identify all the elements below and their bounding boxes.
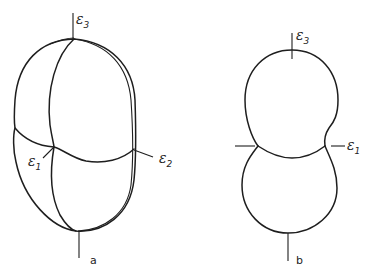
- panel-a-label: a: [90, 254, 97, 267]
- figure-canvas: ε3 ε1 ε2 a ε3 ε1 b: [0, 0, 374, 280]
- panel-b-e3-label: ε3: [296, 27, 310, 46]
- panel-b-upper-lobe: [245, 50, 338, 146]
- panel-a-axis-e2: [134, 150, 153, 157]
- panel-b-e1-label: ε1: [347, 137, 360, 156]
- panel-a-outline: [14, 39, 136, 231]
- panel-a-e2-label: ε2: [159, 150, 173, 169]
- panel-b-lower-lobe: [242, 146, 337, 233]
- panel-a-diagram: ε3 ε1 ε2 a: [14, 11, 173, 267]
- panel-b-label: b: [296, 254, 303, 267]
- panel-b-waist-arc: [258, 146, 325, 158]
- panel-a-e3-label: ε3: [76, 11, 90, 30]
- panel-a-e1-label: ε1: [28, 153, 41, 172]
- panel-a-meridian: [49, 39, 76, 231]
- panel-a-right-edge: [74, 39, 133, 231]
- panel-b-diagram: ε3 ε1 b: [235, 27, 360, 267]
